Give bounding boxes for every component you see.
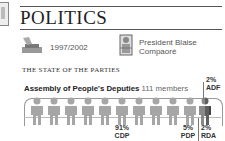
deputy-figure-icon [183, 97, 197, 125]
ballot-box-icon [20, 36, 44, 54]
section-subtitle: THE STATE OF THE PARTIES [22, 66, 120, 74]
deputy-figure-icon [132, 97, 146, 125]
assembly-heading: Assembly of People's Deputies 111 member… [24, 84, 188, 93]
deputy-figure-icon [47, 97, 61, 125]
pdp-label: 5% PDP [180, 124, 196, 140]
president-name-line1: President Blaise [139, 38, 197, 47]
adf-leader-line [203, 82, 204, 100]
deputy-figure-icon [64, 97, 78, 125]
deputy-figure-icon [115, 97, 129, 125]
rda-label: 2% RDA [201, 124, 223, 140]
president-portrait-icon [119, 34, 133, 56]
deputy-figure-split-icon [198, 97, 212, 125]
pdp-rda-divider [198, 118, 199, 141]
cdp-label: 91% CDP [110, 124, 134, 140]
adf-label: 2% ADF [206, 76, 225, 92]
deputy-figure-icon [30, 97, 44, 125]
page-title: POLITICS [20, 8, 107, 28]
election-years: 1997/2002 [50, 43, 88, 52]
president-name-line2: Compaoré [139, 47, 176, 56]
assembly-name: Assembly of People's Deputies [24, 84, 139, 93]
assembly-count: 111 members [142, 84, 189, 93]
deputy-figure-icon [166, 97, 180, 125]
deputy-figure-icon [81, 97, 95, 125]
header-bottom-rule [20, 29, 222, 30]
deputy-figure-icon [98, 97, 112, 125]
cropped-emblem-icon [0, 2, 9, 26]
deputy-figure-icon [149, 97, 163, 125]
